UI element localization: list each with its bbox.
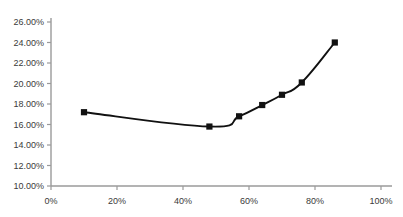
line-chart: 10.00%12.00%14.00%16.00%18.00%20.00%22.0…	[0, 0, 403, 217]
data-point-marker	[299, 79, 305, 85]
axes-group	[51, 18, 392, 186]
series-line	[84, 43, 335, 127]
plot-area	[0, 0, 403, 217]
x-axis-tick-label: 80%	[290, 196, 340, 206]
y-axis-tick-label: 20.00%	[0, 79, 44, 89]
data-point-marker	[206, 123, 212, 129]
y-axis-tick-label: 24.00%	[0, 38, 44, 48]
y-axis-tick-label: 22.00%	[0, 58, 44, 68]
y-axis-tick-label: 18.00%	[0, 99, 44, 109]
y-axis-tick-label: 12.00%	[0, 161, 44, 171]
x-axis-tick-label: 60%	[224, 196, 274, 206]
data-point-marker	[81, 109, 87, 115]
data-point-marker	[259, 102, 265, 108]
data-point-marker	[236, 113, 242, 119]
data-point-marker	[279, 92, 285, 98]
x-axis-tick-label: 100%	[356, 196, 403, 206]
y-axis-tick-label: 16.00%	[0, 120, 44, 130]
x-axis-tick-label: 0%	[26, 196, 76, 206]
y-axis-tick-label: 14.00%	[0, 140, 44, 150]
x-axis-tick-label: 20%	[92, 196, 142, 206]
y-axis-tick-label: 10.00%	[0, 181, 44, 191]
x-axis-tick-label: 40%	[158, 196, 208, 206]
data-point-marker	[332, 39, 338, 45]
y-axis-tick-label: 26.00%	[0, 17, 44, 27]
